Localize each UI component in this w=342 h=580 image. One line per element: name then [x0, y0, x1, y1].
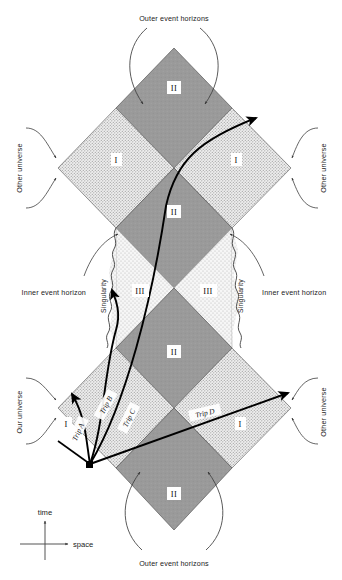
inner-event-horizon-left-label: Inner event horizon: [22, 288, 86, 297]
axis-space-label: space: [73, 540, 93, 549]
region-III-right-label: III: [203, 286, 212, 296]
inner-event-horizon-right-label: Inner event horizon: [262, 288, 326, 297]
singularity-left-label: Singularity: [100, 279, 108, 313]
region-label-region-II-top: II: [167, 81, 181, 94]
region-I-upper-left-label: I: [114, 155, 117, 165]
other-universe-top-left-label: Other universe: [15, 143, 24, 192]
outer-event-horizons-top-label: Outer event horizons: [139, 14, 209, 23]
region-label-region-III-right: III: [200, 284, 217, 297]
region-II-upper-middle-label: II: [171, 207, 177, 217]
region-label-region-I-upper-left: I: [111, 153, 122, 166]
axis-time-label: time: [38, 508, 52, 517]
region-II-bottom-label: II: [171, 489, 177, 499]
region-II-lower-middle-label: II: [171, 347, 177, 357]
region-label-region-I-lower-right: I: [235, 417, 246, 430]
region-label-region-III-left: III: [132, 284, 149, 297]
penrose-diagram-figure: II I I II III III II I: [0, 0, 342, 580]
region-label-region-I-upper-right: I: [231, 153, 242, 166]
region-I-lower-right-label: I: [238, 419, 241, 429]
region-III-left-label: III: [135, 286, 144, 296]
our-universe-bottom-left-label: Our universe: [15, 391, 24, 434]
outer-event-horizons-bottom-label: Outer event horizons: [139, 559, 209, 568]
region-I-lower-left-label: I: [64, 419, 67, 429]
region-II-top-label: II: [171, 83, 177, 93]
region-label-region-II-upper-middle: II: [167, 205, 181, 218]
region-label-region-II-lower-middle: II: [167, 345, 181, 358]
other-universe-bottom-right-label: Other universe: [319, 387, 328, 436]
region-I-upper-right-label: I: [234, 155, 237, 165]
region-label-region-I-lower-left: I: [61, 417, 72, 430]
region-label-region-II-bottom: II: [167, 487, 181, 500]
other-universe-top-right-label: Other universe: [319, 143, 328, 192]
penrose-diagram-svg: II I I II III III II I: [0, 0, 342, 580]
singularity-right-label: Singularity: [237, 279, 245, 313]
